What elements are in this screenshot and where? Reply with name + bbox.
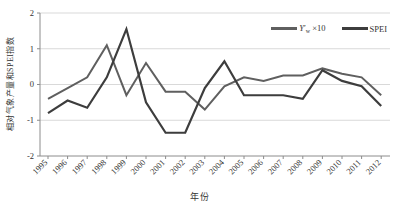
legend: Y′w ×10 SPEI	[271, 23, 387, 34]
x-tick-label: 1996	[50, 157, 69, 176]
x-tick-label: 2008	[285, 157, 304, 176]
x-tick-label: 2011	[344, 157, 363, 176]
legend-entry-yw: Y′w ×10	[271, 23, 325, 34]
y-tick-label: 1	[30, 44, 34, 54]
x-tick-label: 1999	[109, 157, 128, 176]
y-tick-label: 2	[30, 8, 34, 18]
y-tick-label: -1	[27, 115, 34, 125]
x-tick-label: 2010	[324, 157, 343, 176]
y-axis-title: 相对气象产量和SPEI指数	[4, 19, 18, 149]
chart-figure: 210-1-2199519961997199819992000200120022…	[0, 0, 399, 210]
x-tick-label: 2004	[207, 157, 227, 177]
x-tick-label: 2006	[246, 157, 265, 176]
y-tick-label: -2	[27, 151, 34, 161]
legend-entry-spei: SPEI	[342, 24, 387, 34]
legend-line-swatch-yw	[271, 27, 297, 29]
legend-line-swatch-spei	[342, 27, 368, 29]
x-tick-label: 2009	[305, 157, 324, 176]
x-tick-label: 2003	[187, 157, 206, 176]
y-tick-label: 0	[30, 79, 34, 89]
x-tick-label: 1998	[89, 157, 108, 176]
x-tick-label: 2000	[128, 157, 147, 176]
x-tick-label: 2007	[266, 157, 285, 176]
x-tick-label: 2005	[226, 157, 245, 176]
x-axis-title: 年份	[0, 190, 399, 203]
legend-label-yw: Y′w ×10	[299, 23, 325, 34]
x-tick-label: 2001	[148, 157, 167, 176]
x-tick-label: 1997	[70, 157, 89, 176]
series-line-0	[48, 45, 381, 109]
series-line-1	[48, 29, 381, 133]
legend-label-spei: SPEI	[370, 24, 387, 34]
x-tick-label: 2002	[168, 157, 187, 176]
x-tick-label: 2012	[364, 157, 383, 176]
